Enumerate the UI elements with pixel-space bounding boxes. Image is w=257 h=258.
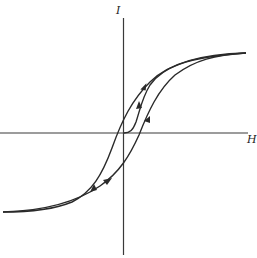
- initial-magnetization-curve: [124, 53, 246, 133]
- arrow-up-right-icon: [103, 178, 112, 185]
- vertical-axis-label: I: [116, 5, 120, 16]
- horizontal-axis-label: H: [247, 134, 257, 145]
- hysteresis-plot: [0, 0, 257, 258]
- hysteresis-diagram: I H: [0, 0, 257, 258]
